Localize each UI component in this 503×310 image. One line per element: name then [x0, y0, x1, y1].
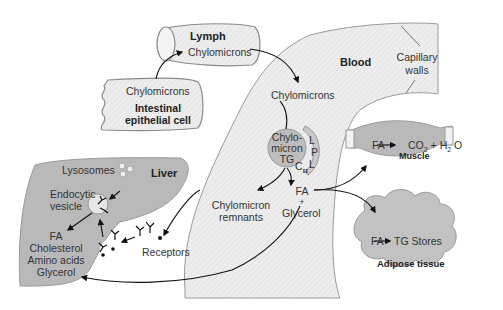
blood-title: Blood	[340, 56, 371, 68]
capillary-label-line1: Capillary	[394, 51, 440, 63]
chylomicron-metabolism-diagram: Lymph Chylomicrons Chylomicrons Intestin…	[0, 0, 503, 310]
liver-title: Liver	[151, 167, 177, 179]
muscle-reaction-fa: FA	[372, 139, 385, 151]
lysosome	[120, 171, 126, 177]
liver-output-glycerol: Glycerol	[20, 266, 92, 278]
lpl-letter-p: P	[311, 146, 318, 158]
endocytic-vesicle-label-line2: vesicle	[50, 200, 82, 212]
intestinal-chylomicrons-label: Chylomicrons	[126, 85, 190, 97]
endocytic-vesicle-label-line1: Endocytic	[50, 188, 96, 200]
remnants-label-line2: remnants	[200, 211, 282, 223]
remnants-label-line1: Chylomicron	[200, 199, 282, 211]
remnant-dot	[158, 236, 162, 240]
adipose-reaction-product: TG Stores	[394, 235, 442, 247]
lysosomes-label: Lysosomes	[62, 164, 115, 176]
intestinal-cell-title-line1: Intestinal	[118, 102, 198, 114]
adipose-reaction-fa: FA	[371, 235, 384, 247]
lysosome	[119, 163, 125, 169]
muscle-title: Muscle	[399, 150, 430, 162]
apo-cii-label: CII	[295, 160, 308, 177]
liver-output-amino-acids: Amino acids	[20, 254, 92, 266]
liver-output-cholesterol: Cholesterol	[20, 242, 92, 254]
adipose-title: Adipose tissue	[377, 258, 445, 270]
lpl-letter-l2: L	[309, 158, 315, 170]
blood-chylomicrons-label: Chylomicrons	[271, 89, 335, 101]
lpl-letter-l1: L	[309, 134, 315, 146]
adipose-region	[354, 190, 456, 267]
lysosome	[127, 166, 133, 172]
lymph-title: Lymph	[190, 30, 226, 42]
liver-output-fa: FA	[20, 230, 92, 242]
intestinal-cell-title-line2: epithelial cell	[114, 114, 202, 126]
lymph-chylomicrons-label: Chylomicrons	[188, 46, 252, 58]
glycerol-label: Glycerol	[282, 207, 321, 219]
capillary-label-line2: walls	[394, 64, 440, 76]
remnant-dot	[111, 247, 115, 251]
muscle-tendon	[346, 130, 354, 148]
remnant-dot	[101, 253, 105, 257]
receptors-label: Receptors	[142, 246, 190, 258]
